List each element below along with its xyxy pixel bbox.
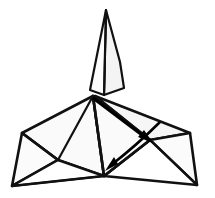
origami-figure-canvas: Origami folding step diagram Line drawin… <box>0 0 215 198</box>
origami-diagram: Origami folding step diagram Line drawin… <box>0 0 215 198</box>
